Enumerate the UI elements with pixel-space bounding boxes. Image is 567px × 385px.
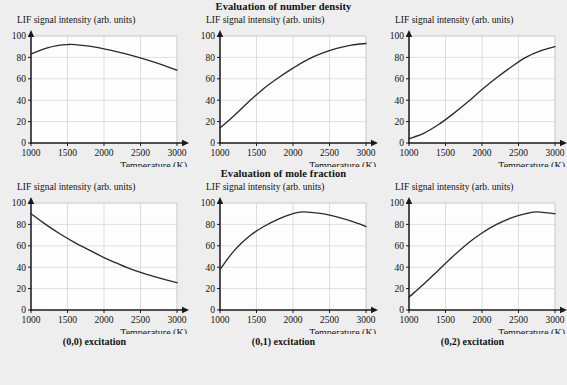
y-tick-label: 40 bbox=[395, 96, 405, 106]
x-tick-label: 1000 bbox=[400, 315, 419, 325]
y-tick-label: 40 bbox=[206, 96, 216, 106]
y-tick-label: 60 bbox=[206, 241, 216, 251]
y-tick-label: 0 bbox=[399, 138, 404, 148]
x-tick-label: 3000 bbox=[546, 315, 565, 325]
x-tick-label: 2500 bbox=[320, 315, 339, 325]
x-axis-label: Temperature (K) bbox=[120, 327, 187, 334]
figure-lif-signal-intensity: Evaluation of number density LIF signal … bbox=[0, 0, 567, 385]
x-tick-label: 1500 bbox=[58, 315, 77, 325]
chart-svg: 02040608010010001500200025003000Temperat… bbox=[378, 194, 567, 334]
x-tick-label: 1500 bbox=[436, 315, 455, 325]
y-tick-label: 60 bbox=[395, 241, 405, 251]
x-tick-label: 1000 bbox=[211, 148, 230, 158]
y-tick-label: 100 bbox=[12, 31, 27, 41]
y-axis-label: LIF signal intensity (arb. units) bbox=[0, 14, 189, 27]
y-tick-label: 80 bbox=[17, 53, 27, 63]
y-tick-label: 0 bbox=[21, 305, 26, 315]
x-tick-label: 3000 bbox=[357, 315, 376, 325]
y-tick-label: 60 bbox=[17, 241, 27, 251]
y-tick-label: 80 bbox=[395, 220, 405, 230]
x-tick-label: 2500 bbox=[131, 315, 150, 325]
x-axis-label: Temperature (K) bbox=[309, 327, 376, 334]
x-tick-label: 1500 bbox=[436, 148, 455, 158]
chart-svg: 02040608010010001500200025003000Temperat… bbox=[378, 27, 567, 167]
x-tick-label: 1000 bbox=[22, 315, 41, 325]
y-axis-label: LIF signal intensity (arb. units) bbox=[189, 181, 378, 194]
x-tick-label: 2500 bbox=[509, 315, 528, 325]
x-tick-label: 2500 bbox=[320, 148, 339, 158]
plot-cell-0-0: LIF signal intensity (arb. units) 020406… bbox=[0, 14, 189, 167]
column-label-0-1: (0,1) excitation bbox=[189, 334, 378, 350]
plot-cell-0-1: LIF signal intensity (arb. units) 020406… bbox=[189, 14, 378, 167]
y-tick-label: 0 bbox=[210, 305, 215, 315]
x-axis-label: Temperature (K) bbox=[120, 160, 187, 167]
x-tick-label: 2000 bbox=[284, 315, 303, 325]
y-tick-label: 80 bbox=[395, 53, 405, 63]
x-axis-label: Temperature (K) bbox=[309, 160, 376, 167]
y-tick-label: 60 bbox=[206, 74, 216, 84]
x-tick-label: 3000 bbox=[168, 315, 187, 325]
x-tick-label: 1000 bbox=[211, 315, 230, 325]
x-tick-label: 2500 bbox=[131, 148, 150, 158]
chart-svg: 02040608010010001500200025003000Temperat… bbox=[189, 27, 378, 167]
x-tick-label: 1000 bbox=[400, 148, 419, 158]
y-tick-label: 60 bbox=[395, 74, 405, 84]
chart-svg: 02040608010010001500200025003000Temperat… bbox=[0, 27, 189, 167]
x-axis-label: Temperature (K) bbox=[498, 327, 565, 334]
x-tick-label: 3000 bbox=[546, 148, 565, 158]
y-tick-label: 0 bbox=[21, 138, 26, 148]
plot-0-0: 02040608010010001500200025003000Temperat… bbox=[0, 27, 189, 167]
y-tick-label: 40 bbox=[395, 263, 405, 273]
x-tick-label: 2000 bbox=[95, 315, 114, 325]
plot-row-number-density: LIF signal intensity (arb. units) 020406… bbox=[0, 14, 567, 167]
y-tick-label: 100 bbox=[390, 31, 405, 41]
x-tick-label: 2000 bbox=[473, 148, 492, 158]
y-tick-label: 20 bbox=[395, 284, 405, 294]
y-tick-label: 100 bbox=[12, 198, 27, 208]
y-tick-label: 40 bbox=[17, 96, 27, 106]
plot-row-mole-fraction: LIF signal intensity (arb. units) 020406… bbox=[0, 181, 567, 334]
y-tick-label: 20 bbox=[17, 117, 27, 127]
y-tick-label: 20 bbox=[206, 117, 216, 127]
y-axis-label: LIF signal intensity (arb. units) bbox=[0, 181, 189, 194]
column-label-0-2: (0,2) excitation bbox=[378, 334, 567, 350]
plot-cell-0-2: LIF signal intensity (arb. units) 020406… bbox=[378, 14, 567, 167]
y-tick-label: 60 bbox=[17, 74, 27, 84]
column-label-0-0: (0,0) excitation bbox=[0, 334, 189, 350]
x-tick-label: 2000 bbox=[95, 148, 114, 158]
y-tick-label: 20 bbox=[206, 284, 216, 294]
x-tick-label: 3000 bbox=[357, 148, 376, 158]
x-tick-label: 1000 bbox=[22, 148, 41, 158]
chart-svg: 02040608010010001500200025003000Temperat… bbox=[189, 194, 378, 334]
x-tick-label: 1500 bbox=[58, 148, 77, 158]
y-tick-label: 20 bbox=[395, 117, 405, 127]
plot-cell-1-1: LIF signal intensity (arb. units) 020406… bbox=[189, 181, 378, 334]
column-label-row: (0,0) excitation (0,1) excitation (0,2) … bbox=[0, 334, 567, 350]
y-axis-label: LIF signal intensity (arb. units) bbox=[378, 181, 567, 194]
y-tick-label: 80 bbox=[206, 53, 216, 63]
y-tick-label: 100 bbox=[201, 31, 216, 41]
y-tick-label: 0 bbox=[399, 305, 404, 315]
plot-cell-1-0: LIF signal intensity (arb. units) 020406… bbox=[0, 181, 189, 334]
y-axis-label: LIF signal intensity (arb. units) bbox=[189, 14, 378, 27]
x-tick-label: 2500 bbox=[509, 148, 528, 158]
plot-1-0: 02040608010010001500200025003000Temperat… bbox=[0, 194, 189, 334]
x-tick-label: 2000 bbox=[473, 315, 492, 325]
row-title-mole-fraction: Evaluation of mole fraction bbox=[0, 167, 567, 181]
y-tick-label: 100 bbox=[201, 198, 216, 208]
plot-1-1: 02040608010010001500200025003000Temperat… bbox=[189, 194, 378, 334]
x-tick-label: 2000 bbox=[284, 148, 303, 158]
plot-0-1: 02040608010010001500200025003000Temperat… bbox=[189, 27, 378, 167]
y-axis-label: LIF signal intensity (arb. units) bbox=[378, 14, 567, 27]
y-tick-label: 40 bbox=[17, 263, 27, 273]
y-tick-label: 40 bbox=[206, 263, 216, 273]
x-tick-label: 1500 bbox=[247, 315, 266, 325]
x-tick-label: 3000 bbox=[168, 148, 187, 158]
y-tick-label: 80 bbox=[17, 220, 27, 230]
y-tick-label: 100 bbox=[390, 198, 405, 208]
plot-1-2: 02040608010010001500200025003000Temperat… bbox=[378, 194, 567, 334]
x-tick-label: 1500 bbox=[247, 148, 266, 158]
y-tick-label: 80 bbox=[206, 220, 216, 230]
row-title-number-density: Evaluation of number density bbox=[0, 0, 567, 14]
plot-cell-1-2: LIF signal intensity (arb. units) 020406… bbox=[378, 181, 567, 334]
